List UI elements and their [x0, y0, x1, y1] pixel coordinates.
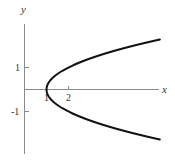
- y-axis-label: y: [20, 3, 26, 15]
- x-tick-2: 2: [66, 86, 71, 103]
- y-tick-neg1: -1: [11, 106, 29, 117]
- x-axis-label: x: [161, 83, 167, 95]
- x-tick-label: 2: [66, 92, 71, 103]
- y-tick-1: 1: [15, 62, 29, 73]
- y-tick-label: 1: [15, 62, 20, 73]
- y-tick-label: -1: [11, 106, 19, 117]
- parabola-diagram: y x 1 -1 1 2: [0, 0, 175, 163]
